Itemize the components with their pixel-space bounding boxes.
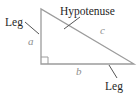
side-a-label: a (28, 35, 34, 47)
right-triangle-diagram: Leg Hypotenuse Leg a b c (0, 0, 139, 99)
right-angle-marker-icon (41, 57, 48, 64)
triangle-outline (41, 9, 134, 64)
side-b-label: b (76, 65, 82, 77)
leg-bottom-label: Leg (105, 80, 123, 93)
diagram-canvas: Leg Hypotenuse Leg a b c (0, 0, 139, 99)
hypotenuse-label: Hypotenuse (60, 5, 115, 18)
leg-bottom-pointer-line (109, 65, 117, 78)
leg-left-label: Leg (5, 16, 23, 29)
leg-left-pointer-line (25, 22, 39, 34)
side-c-label: c (100, 24, 105, 36)
